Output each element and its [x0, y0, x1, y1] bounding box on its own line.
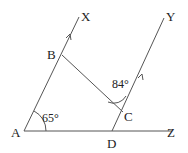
angle-arc-c — [108, 96, 126, 103]
label-x: X — [81, 9, 91, 24]
angle-label-c: 84° — [112, 77, 129, 91]
ray-dy — [112, 18, 164, 131]
angle-label-a: 65° — [42, 111, 59, 125]
label-y: Y — [166, 9, 176, 24]
label-b: B — [47, 47, 56, 62]
label-c: C — [124, 109, 133, 124]
label-d: D — [107, 136, 116, 151]
geometry-diagram: B X Y A C D Z 65° 84° — [0, 0, 188, 153]
label-a: A — [11, 125, 21, 140]
label-z: Z — [167, 125, 175, 140]
parallel-arrow-icon — [138, 74, 143, 80]
